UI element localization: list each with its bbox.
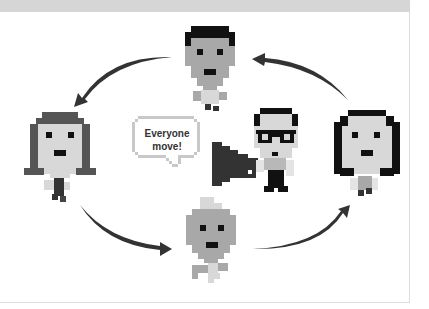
arrow-bottom-to-right: [253, 205, 350, 249]
top-character: [185, 26, 235, 111]
leader-character: [254, 108, 298, 192]
arrow-left-to-bottom: [80, 205, 172, 256]
speech-bubble-text: Everyone move!: [134, 127, 200, 153]
arrow-right-to-top: [252, 53, 348, 100]
speech-line-2: move!: [134, 140, 200, 153]
cycle-diagram: [0, 0, 429, 309]
arrow-top-to-left: [74, 57, 172, 107]
right-character: [334, 110, 400, 196]
speech-line-1: Everyone: [134, 127, 200, 140]
megaphone: [212, 142, 258, 186]
left-character: [24, 112, 96, 202]
bottom-character: [186, 197, 236, 283]
